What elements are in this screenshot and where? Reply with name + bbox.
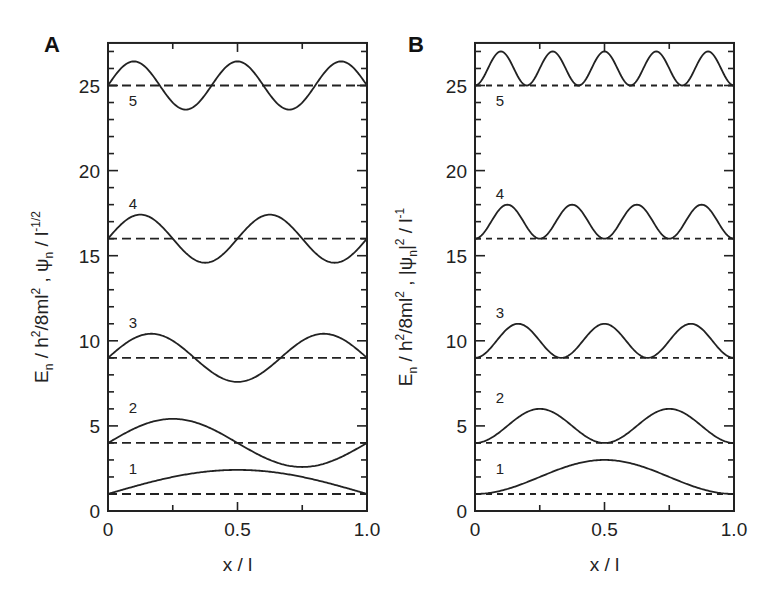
wavefunction-curve-n1 — [475, 460, 734, 494]
level-label-n2: 2 — [496, 389, 504, 406]
wavefunction-curve-n4 — [475, 205, 734, 239]
wavefunction-curve-n4 — [108, 215, 367, 263]
y-tick-label: 25 — [446, 76, 467, 97]
x-tick-label: 0 — [103, 519, 114, 540]
level-label-n1: 1 — [129, 460, 137, 477]
plot-frame — [108, 43, 367, 511]
level-label-n3: 3 — [129, 314, 137, 331]
level-label-n3: 3 — [496, 304, 504, 321]
x-tick-label: 0.5 — [224, 519, 250, 540]
x-tick-label: 1.0 — [354, 519, 380, 540]
y-tick-label: 15 — [79, 246, 100, 267]
x-tick-label: 0.5 — [591, 519, 617, 540]
level-label-n4: 4 — [496, 185, 504, 202]
level-label-n5: 5 — [496, 92, 504, 109]
energy-level-charts: A051015202500.51.0x / lEn / h2/8ml2 , ψn… — [0, 0, 772, 601]
panel-a-psi-chart: A051015202500.51.0x / lEn / h2/8ml2 , ψn… — [29, 32, 380, 575]
wavefunction-curve-n1 — [108, 470, 367, 494]
panel-b-psi-squared-chart: B051015202500.51.0x / lEn / h2/8ml2 , |ψ… — [393, 32, 747, 575]
wavefunction-curve-n5 — [475, 51, 734, 85]
plot-frame — [475, 43, 734, 511]
y-tick-label: 5 — [89, 416, 100, 437]
y-tick-label: 5 — [456, 416, 467, 437]
y-tick-label: 10 — [446, 331, 467, 352]
panel-letter: A — [44, 32, 60, 57]
wavefunction-curve-n3 — [475, 324, 734, 358]
y-tick-label: 25 — [79, 76, 100, 97]
x-axis-label: x / l — [223, 554, 253, 575]
y-tick-label: 10 — [79, 331, 100, 352]
y-tick-label: 20 — [79, 161, 100, 182]
level-label-n5: 5 — [129, 92, 137, 109]
level-label-n1: 1 — [496, 460, 504, 477]
level-label-n4: 4 — [129, 195, 137, 212]
y-axis-label: En / h2/8ml2 , ψn / l-1/2 — [29, 211, 56, 383]
y-tick-label: 0 — [456, 501, 467, 522]
panel-letter: B — [408, 32, 424, 57]
x-tick-label: 1.0 — [721, 519, 747, 540]
y-axis-label: En / h2/8ml2 , |ψn|2 / l-1 — [393, 207, 420, 386]
x-axis-label: x / l — [590, 554, 620, 575]
y-tick-label: 15 — [446, 246, 467, 267]
x-tick-label: 0 — [470, 519, 481, 540]
wavefunction-curve-n2 — [475, 409, 734, 443]
level-label-n2: 2 — [129, 399, 137, 416]
y-tick-label: 0 — [89, 501, 100, 522]
y-tick-label: 20 — [446, 161, 467, 182]
wavefunction-curve-n2 — [108, 419, 367, 467]
